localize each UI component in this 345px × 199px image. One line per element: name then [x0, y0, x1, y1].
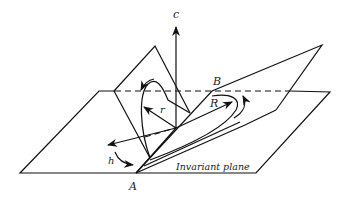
- label-B: B: [212, 75, 221, 88]
- label-A: A: [128, 180, 137, 193]
- label-r: r: [160, 104, 166, 115]
- label-h: h: [108, 155, 114, 166]
- h-rotation-arrow: [115, 152, 133, 165]
- R-vector-arrow: [176, 102, 232, 128]
- invariant-plane: [20, 91, 330, 173]
- label-invariant-plane: Invariant plane: [175, 161, 250, 172]
- label-c: c: [173, 8, 179, 21]
- label-R: R: [209, 97, 218, 110]
- invariant-plane-diagram: c r R h B A Invariant plane: [0, 0, 345, 199]
